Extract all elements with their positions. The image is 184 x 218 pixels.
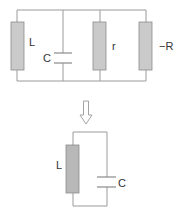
label-negative-R: −R bbox=[159, 40, 173, 52]
label-L: L bbox=[29, 36, 35, 48]
resistor-r-branch: r bbox=[93, 10, 116, 81]
top-circuit: L C r −R bbox=[11, 10, 173, 81]
inductor-L-branch: L bbox=[11, 10, 35, 81]
bottom-capacitor-C-branch: C bbox=[97, 132, 126, 206]
negative-resistor-body bbox=[139, 22, 152, 70]
capacitor-C-branch: C bbox=[43, 10, 72, 81]
negative-resistor-branch: −R bbox=[139, 10, 173, 81]
label-C: C bbox=[43, 52, 51, 64]
bottom-label-C: C bbox=[118, 177, 126, 189]
bottom-circuit: L C bbox=[56, 132, 126, 206]
inductor-L-body bbox=[11, 22, 24, 70]
label-r: r bbox=[112, 40, 116, 52]
bottom-label-L: L bbox=[56, 159, 62, 171]
circuit-diagram: L C r −R bbox=[0, 0, 184, 218]
bottom-inductor-L-body bbox=[66, 145, 79, 193]
bottom-inductor-L-branch: L bbox=[56, 132, 79, 206]
resistor-r-body bbox=[93, 22, 106, 70]
down-arrow-icon bbox=[80, 101, 92, 124]
